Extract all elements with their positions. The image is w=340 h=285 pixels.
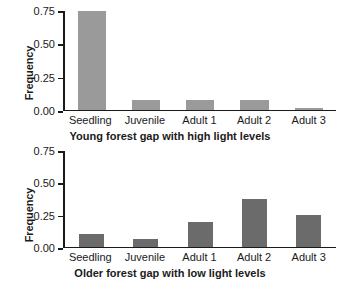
y-tick-label-2: 0.50 bbox=[34, 177, 55, 189]
y-tick-2 bbox=[58, 183, 63, 185]
x-label-juvenile: Juvenile bbox=[118, 251, 173, 263]
x-label-adult-1: Adult 1 bbox=[172, 114, 227, 126]
bar-slot bbox=[65, 151, 119, 247]
chart-caption-top: Young forest gap with high light levels bbox=[0, 130, 340, 142]
bar-seedling bbox=[78, 11, 106, 110]
y-tick-0 bbox=[58, 248, 63, 250]
x-label-seedling: Seedling bbox=[63, 251, 118, 263]
y-tick-1 bbox=[58, 78, 63, 80]
x-label-seedling: Seedling bbox=[63, 114, 118, 126]
chart-panel-older-forest: Frequency 0.75 0.50 0.25 0.00 Seedling J… bbox=[0, 145, 340, 285]
plot-area-top: 0.75 0.50 0.25 0.00 bbox=[63, 11, 336, 111]
y-tick-label-1: 0.25 bbox=[34, 210, 55, 222]
y-tick-label-1: 0.25 bbox=[34, 72, 55, 84]
bar-group-bottom bbox=[65, 151, 337, 247]
y-tick-label-3: 0.75 bbox=[34, 5, 55, 17]
bar-adult-3 bbox=[296, 215, 321, 247]
chart-panel-young-forest: Frequency 0.75 0.50 0.25 0.00 Seedling J… bbox=[0, 0, 340, 145]
y-tick-label-2: 0.50 bbox=[34, 38, 55, 50]
bar-slot bbox=[173, 151, 227, 247]
figure: Frequency 0.75 0.50 0.25 0.00 Seedling J… bbox=[0, 0, 340, 285]
x-label-adult-2: Adult 2 bbox=[227, 251, 282, 263]
x-label-adult-1: Adult 1 bbox=[172, 251, 227, 263]
x-axis-line bbox=[63, 110, 336, 112]
bar-slot bbox=[282, 151, 336, 247]
x-label-adult-3: Adult 3 bbox=[281, 251, 336, 263]
x-axis-line bbox=[63, 247, 336, 249]
x-axis-labels-top: Seedling Juvenile Adult 1 Adult 2 Adult … bbox=[63, 114, 336, 126]
y-tick-3 bbox=[58, 151, 63, 153]
bar-group-top bbox=[65, 11, 337, 110]
chart-caption-bottom: Older forest gap with low light levels bbox=[0, 267, 340, 279]
bar-seedling bbox=[79, 234, 104, 246]
plot-area-bottom: 0.75 0.50 0.25 0.00 bbox=[63, 151, 336, 248]
bar-slot bbox=[282, 11, 336, 110]
bar-slot bbox=[173, 11, 227, 110]
x-label-adult-3: Adult 3 bbox=[281, 114, 336, 126]
bar-slot bbox=[65, 11, 119, 110]
bar-adult-2 bbox=[240, 100, 268, 110]
y-tick-3 bbox=[58, 11, 63, 13]
bar-adult-3 bbox=[295, 108, 323, 109]
x-label-adult-2: Adult 2 bbox=[227, 114, 282, 126]
bar-juvenile bbox=[133, 239, 158, 247]
bar-juvenile bbox=[132, 100, 160, 109]
y-tick-label-3: 0.75 bbox=[34, 145, 55, 157]
y-tick-1 bbox=[58, 216, 63, 218]
y-tick-2 bbox=[58, 44, 63, 46]
bar-adult-2 bbox=[242, 199, 267, 247]
x-label-juvenile: Juvenile bbox=[118, 114, 173, 126]
y-tick-label-0: 0.00 bbox=[34, 105, 55, 117]
y-tick-label-0: 0.00 bbox=[34, 242, 55, 254]
x-axis-labels-bottom: Seedling Juvenile Adult 1 Adult 2 Adult … bbox=[63, 251, 336, 263]
y-tick-0 bbox=[58, 111, 63, 113]
bar-adult-1 bbox=[188, 222, 213, 246]
bar-slot bbox=[227, 151, 281, 247]
bar-slot bbox=[119, 151, 173, 247]
bar-slot bbox=[227, 11, 281, 110]
bar-slot bbox=[119, 11, 173, 110]
bar-adult-1 bbox=[186, 100, 214, 110]
